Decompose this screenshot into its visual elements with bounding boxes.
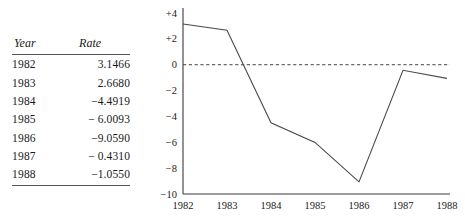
cell-rate: −4.4919 [49, 92, 130, 110]
y-tick-label: 0 [172, 59, 177, 70]
y-axis-tick-labels: +4+20−2−4−6−8−10 [161, 8, 178, 200]
y-tick-label: +2 [166, 33, 177, 44]
x-tick-label: 1985 [305, 200, 326, 211]
cell-rate: −9.0590 [49, 129, 130, 147]
table-row: 1982 3.1466 [12, 55, 130, 74]
cell-year: 1986 [12, 129, 49, 147]
table-head: Year Rate [12, 36, 130, 55]
cell-year: 1988 [12, 165, 49, 185]
table: Year Rate 1982 3.1466 1983 2.6680 1984 −… [12, 36, 130, 185]
y-tick-label: −6 [166, 137, 177, 148]
y-tick-label: +4 [166, 8, 178, 19]
rate-data-table: Year Rate 1982 3.1466 1983 2.6680 1984 −… [12, 36, 130, 186]
cell-year: 1984 [12, 92, 49, 110]
table-row: 1984 −4.4919 [12, 92, 130, 110]
y-tick-label: −4 [166, 111, 178, 122]
table-row: 1985 − 6.0093 [12, 110, 130, 128]
figure-container: Year Rate 1982 3.1466 1983 2.6680 1984 −… [0, 0, 465, 223]
table-row: 1986 −9.0590 [12, 129, 130, 147]
cell-year: 1987 [12, 147, 49, 165]
cell-year: 1982 [12, 55, 49, 74]
table-row: 1988 −1.0550 [12, 165, 130, 185]
column-header-year: Year [12, 36, 49, 55]
cell-rate: −1.0550 [49, 165, 130, 185]
column-header-rate: Rate [49, 36, 130, 55]
cell-rate: − 6.0093 [49, 110, 130, 128]
x-tick-label: 1987 [393, 200, 414, 211]
line-chart: +4+20−2−4−6−8−10 19821983198419851986198… [150, 0, 465, 223]
cell-year: 1983 [12, 73, 49, 91]
x-tick-label: 1982 [173, 200, 194, 211]
cell-year: 1985 [12, 110, 49, 128]
table-row: 1983 2.6680 [12, 73, 130, 91]
x-axis-tick-labels: 1982198319841985198619871988 [173, 200, 458, 211]
table-body: 1982 3.1466 1983 2.6680 1984 −4.4919 198… [12, 55, 130, 186]
y-tick-label: −8 [166, 163, 177, 174]
x-tick-label: 1988 [437, 200, 458, 211]
x-tick-label: 1984 [261, 200, 283, 211]
cell-rate: 3.1466 [49, 55, 130, 74]
chart-svg: +4+20−2−4−6−8−10 19821983198419851986198… [150, 0, 465, 223]
x-tick-label: 1983 [217, 200, 238, 211]
y-tick-label: −2 [166, 85, 177, 96]
table-row: 1987 − 0.4310 [12, 147, 130, 165]
x-tick-label: 1986 [349, 200, 370, 211]
cell-rate: 2.6680 [49, 73, 130, 91]
table-bottom-rule [12, 185, 130, 186]
y-tick-label: −10 [161, 189, 177, 200]
rate-series-line [183, 24, 447, 182]
cell-rate: − 0.4310 [49, 147, 130, 165]
table-header-row: Year Rate [12, 36, 130, 55]
